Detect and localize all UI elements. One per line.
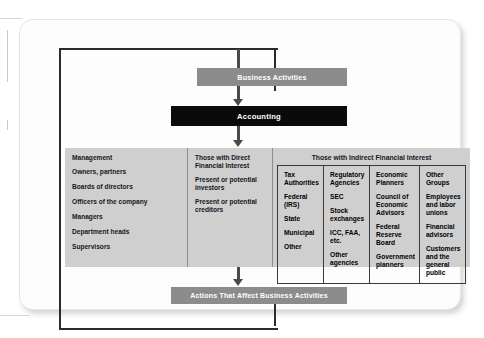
list-item: ICC, FAA, etc. xyxy=(330,229,365,245)
list-item: Officers of the company xyxy=(72,198,182,206)
group-economic-planners-heading: Economic Planners xyxy=(376,171,415,187)
list-item: Other xyxy=(284,243,319,251)
group-tax-authorities-heading: Tax Authorities xyxy=(284,171,319,187)
users-of-accounting-information-panel: Management Owners, partners Boards of di… xyxy=(65,148,470,267)
page-edge-rule-left-lower xyxy=(7,120,8,130)
list-item: Council of Economic Advisors xyxy=(376,193,415,217)
page-edge-rule-top xyxy=(0,18,22,19)
group-other-groups-heading: Other Groups xyxy=(426,171,461,187)
connector-top-into-business xyxy=(237,49,240,68)
arrowhead-into-accounting xyxy=(233,99,243,106)
process-box-accounting[interactable]: Accounting xyxy=(171,106,347,126)
process-box-accounting-label: Accounting xyxy=(237,112,281,121)
list-item: Financial advisors xyxy=(426,223,461,239)
connector-business-to-accounting xyxy=(237,86,240,100)
list-item: Supervisors xyxy=(72,243,182,251)
list-item: Present or potential creditors xyxy=(195,198,267,214)
group-regulatory-agencies: Regulatory Agencies SEC Stock exchanges … xyxy=(324,166,369,283)
arrowhead-into-users xyxy=(233,140,243,147)
list-item: Present or potential investors xyxy=(195,176,267,192)
list-item: Owners, partners xyxy=(72,168,182,176)
group-regulatory-agencies-heading: Regulatory Agencies xyxy=(330,171,365,187)
process-box-actions[interactable]: Actions That Affect Business Activities xyxy=(171,287,347,304)
indirect-groups-box: Tax Authorities Federal (IRS) State Muni… xyxy=(277,165,466,284)
process-box-business-activities[interactable]: Business Activities xyxy=(197,68,347,86)
list-item: SEC xyxy=(330,193,365,201)
column-management-heading: Management xyxy=(72,154,182,162)
page-edge-rule-bottom xyxy=(0,315,30,316)
diagram-card: Business Activities Accounting Actions T… xyxy=(19,19,461,310)
column-indirect-financial-interest-heading: Those with Indirect Financial Interest xyxy=(277,154,466,161)
list-item: Municipal xyxy=(284,229,319,237)
list-item: Boards of directors xyxy=(72,183,182,191)
list-item: Stock exchanges xyxy=(330,207,365,223)
process-box-actions-label: Actions That Affect Business Activities xyxy=(190,292,328,299)
column-direct-financial-interest-heading: Those with Direct Financial Interest xyxy=(195,154,267,170)
list-item: Managers xyxy=(72,213,182,221)
group-other-groups: Other Groups Employees and labor unions … xyxy=(420,166,465,283)
list-item: Employees and labor unions xyxy=(426,193,461,217)
column-indirect-financial-interest: Those with Indirect Financial Interest T… xyxy=(273,148,470,267)
connector-accounting-to-users xyxy=(237,126,240,141)
list-item: Federal Reserve Board xyxy=(376,223,415,247)
group-economic-planners: Economic Planners Council of Economic Ad… xyxy=(370,166,419,283)
list-item: Customers and the general public xyxy=(426,245,461,277)
list-item: Federal (IRS) xyxy=(284,193,319,209)
list-item: Department heads xyxy=(72,228,182,236)
arrowhead-into-actions xyxy=(233,279,243,286)
column-management: Management Owners, partners Boards of di… xyxy=(65,148,187,267)
process-box-business-activities-label: Business Activities xyxy=(237,73,306,82)
list-item: Government planners xyxy=(376,253,415,269)
column-direct-financial-interest: Those with Direct Financial Interest Pre… xyxy=(188,148,272,267)
page-edge-rule-left xyxy=(7,30,8,82)
list-item: State xyxy=(284,215,319,223)
group-tax-authorities: Tax Authorities Federal (IRS) State Muni… xyxy=(278,166,323,283)
list-item: Other agencies xyxy=(330,251,365,267)
